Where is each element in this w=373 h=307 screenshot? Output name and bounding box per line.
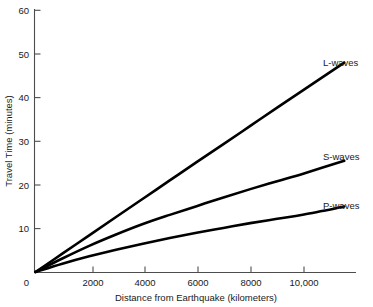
x-axis-title: Distance from Earthquake (kilometers) (115, 292, 277, 303)
series-label-p-waves: P-waves (323, 200, 360, 211)
x-axis-ticks (93, 267, 304, 273)
y-axis-title: Travel Time (minutes) (3, 95, 14, 187)
y-tick-label-10: 10 (18, 223, 29, 234)
series-label-s-waves: S-waves (323, 151, 360, 162)
x-tick-label-2000: 2000 (82, 277, 103, 288)
y-tick-label-50: 50 (18, 49, 29, 60)
y-tick-label-30: 30 (18, 136, 29, 147)
y-axis-tick-labels: 60 50 40 30 20 10 0 (18, 5, 29, 288)
x-axis-tick-labels: 2000 4000 6000 8000 10,000 (82, 277, 318, 288)
y-tick-label-40: 40 (18, 92, 29, 103)
x-tick-label-8000: 8000 (240, 277, 261, 288)
y-axis-ticks (35, 10, 41, 228)
y-tick-label-0: 0 (24, 277, 29, 288)
x-tick-label-10000: 10,000 (289, 277, 318, 288)
y-tick-label-60: 60 (18, 5, 29, 16)
x-tick-label-4000: 4000 (134, 277, 155, 288)
chart-svg: 60 50 40 30 20 10 0 2000 4000 6000 8000 … (0, 0, 373, 307)
seismic-travel-time-chart: 60 50 40 30 20 10 0 2000 4000 6000 8000 … (0, 0, 373, 307)
curve-l-waves (36, 63, 345, 272)
y-tick-label-20: 20 (18, 180, 29, 191)
series-label-l-waves: L-waves (323, 57, 359, 68)
x-tick-label-6000: 6000 (187, 277, 208, 288)
